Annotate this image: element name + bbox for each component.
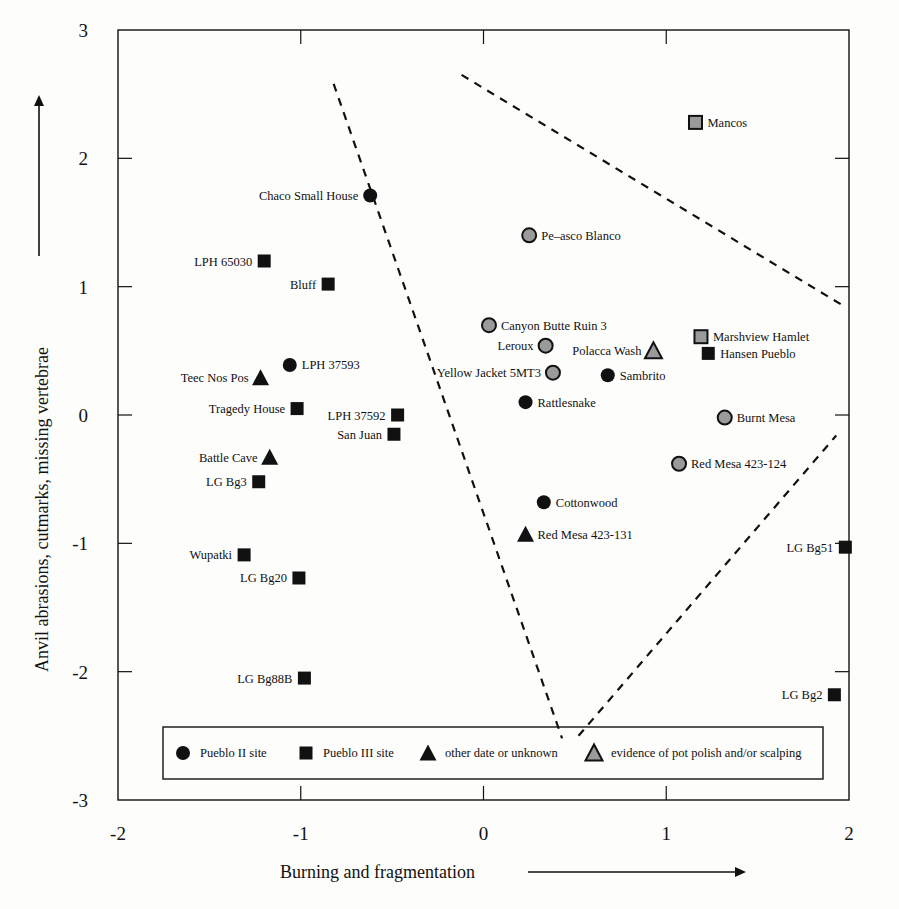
point-label: Mancos xyxy=(707,116,747,130)
point-label: LG Bg20 xyxy=(240,571,287,585)
point-label: Teec Nos Pos xyxy=(181,371,249,385)
data-point: LPH 37592 xyxy=(328,409,405,423)
data-point: Chaco Small House xyxy=(259,189,377,204)
point-label: Battle Cave xyxy=(199,451,258,465)
point-label: Cottonwood xyxy=(556,496,619,510)
data-point: Polacca Wash xyxy=(572,342,662,358)
legend-square-icon xyxy=(300,747,313,760)
point-label: LPH 37593 xyxy=(302,358,360,372)
x-axis-arrow-icon xyxy=(528,867,746,877)
point-label: Wupatki xyxy=(190,548,233,562)
data-point: Tragedy House xyxy=(209,402,304,416)
circle-marker-icon xyxy=(522,228,536,242)
circle-marker-icon xyxy=(283,358,297,372)
triangle-marker-icon xyxy=(517,526,534,542)
x-tick-label: 2 xyxy=(844,823,854,844)
point-label: Marshview Hamlet xyxy=(713,330,810,344)
data-point: Rattlesnake xyxy=(519,395,597,410)
square-marker-icon xyxy=(694,330,707,343)
data-point: Battle Cave xyxy=(199,449,278,465)
point-label: Red Mesa 423-131 xyxy=(538,528,633,542)
y-tick-label: -2 xyxy=(72,662,88,683)
y-axis-arrow-icon xyxy=(34,95,44,256)
triangle-marker-icon xyxy=(645,342,662,358)
data-point: LPH 37593 xyxy=(283,358,360,373)
legend-label: other date or unknown xyxy=(445,746,559,760)
data-point: Cottonwood xyxy=(537,495,619,510)
y-tick-label: 3 xyxy=(79,20,89,41)
data-point: Pe–asco Blanco xyxy=(522,228,621,243)
point-label: LG Bg88B xyxy=(237,672,292,686)
point-label: Tragedy House xyxy=(209,402,286,416)
data-point: Red Mesa 423-124 xyxy=(672,457,787,472)
square-marker-icon xyxy=(238,548,251,561)
x-tick-label: 1 xyxy=(662,823,672,844)
y-tick-label: 0 xyxy=(79,405,89,426)
circle-marker-icon xyxy=(363,189,377,203)
scatter-chart: -2-10123210-1-2-3 MancosChaco Small Hous… xyxy=(0,0,899,909)
legend-triangle-icon xyxy=(420,745,437,761)
square-marker-icon xyxy=(828,688,841,701)
legend-item: evidence of pot polish and/or scalping xyxy=(586,745,803,761)
point-label: Canyon Butte Ruin 3 xyxy=(501,319,607,333)
data-point: Yellow Jacket 5MT3 xyxy=(437,366,560,381)
y-tick-label: -1 xyxy=(72,533,88,554)
circle-marker-icon xyxy=(539,339,553,353)
y-tick-label: 2 xyxy=(79,148,89,169)
point-label: Polacca Wash xyxy=(572,344,642,358)
point-label: Bluff xyxy=(290,278,317,292)
data-point: Leroux xyxy=(498,339,553,354)
circle-marker-icon xyxy=(482,318,496,332)
data-point: Hansen Pueblo xyxy=(702,347,796,361)
data-points: MancosChaco Small HousePe–asco BlancoLPH… xyxy=(181,116,852,702)
y-axis-title: Anvil abrasions, cutmarks, missing verte… xyxy=(32,347,52,672)
square-marker-icon xyxy=(258,255,271,268)
square-marker-icon xyxy=(298,672,311,685)
square-marker-icon xyxy=(291,402,304,415)
legend-item: other date or unknown xyxy=(420,745,559,761)
circle-marker-icon xyxy=(718,411,732,425)
legend-triangle-icon xyxy=(586,745,603,761)
point-label: LPH 37592 xyxy=(328,409,386,423)
legend-item: Pueblo II site xyxy=(176,746,267,760)
data-point: Sambrito xyxy=(601,368,666,383)
point-label: Hansen Pueblo xyxy=(720,347,795,361)
legend-label: Pueblo III site xyxy=(323,746,394,760)
data-point: Red Mesa 423-131 xyxy=(517,526,633,542)
point-label: LPH 65030 xyxy=(194,255,252,269)
circle-marker-icon xyxy=(601,368,615,382)
axis-ticks: -2-10123210-1-2-3 xyxy=(72,20,854,844)
y-tick-label: -3 xyxy=(72,790,88,811)
point-label: Yellow Jacket 5MT3 xyxy=(437,366,541,380)
square-marker-icon xyxy=(387,428,400,441)
data-point: Bluff xyxy=(290,278,335,292)
y-tick-label: 1 xyxy=(79,277,89,298)
data-point: Wupatki xyxy=(190,548,251,562)
x-tick-label: 0 xyxy=(479,823,489,844)
data-point: LG Bg2 xyxy=(782,688,841,702)
legend-item: Pueblo III site xyxy=(300,746,395,760)
x-tick-label: -2 xyxy=(110,823,126,844)
square-marker-icon xyxy=(689,116,702,129)
point-label: Burnt Mesa xyxy=(737,411,796,425)
data-point: Teec Nos Pos xyxy=(181,369,269,385)
data-point: LPH 65030 xyxy=(194,255,271,269)
triangle-marker-icon xyxy=(252,369,269,385)
data-point: LG Bg88B xyxy=(237,672,311,686)
x-axis-title: Burning and fragmentation xyxy=(280,862,475,882)
square-marker-icon xyxy=(839,541,852,554)
point-label: Sambrito xyxy=(620,369,666,383)
square-marker-icon xyxy=(252,475,265,488)
point-label: LG Bg3 xyxy=(206,475,247,489)
data-point: LG Bg51 xyxy=(786,541,851,555)
point-label: Pe–asco Blanco xyxy=(541,229,621,243)
axis-titles: Burning and fragmentation Anvil abrasion… xyxy=(32,95,746,882)
circle-marker-icon xyxy=(672,457,686,471)
data-point: LG Bg3 xyxy=(206,475,265,489)
square-marker-icon xyxy=(322,278,335,291)
point-label: Red Mesa 423-124 xyxy=(691,457,787,471)
legend-label: evidence of pot polish and/or scalping xyxy=(611,746,802,760)
point-label: Leroux xyxy=(498,339,535,353)
legend: Pueblo II sitePueblo III siteother date … xyxy=(163,727,823,779)
square-marker-icon xyxy=(292,571,305,584)
